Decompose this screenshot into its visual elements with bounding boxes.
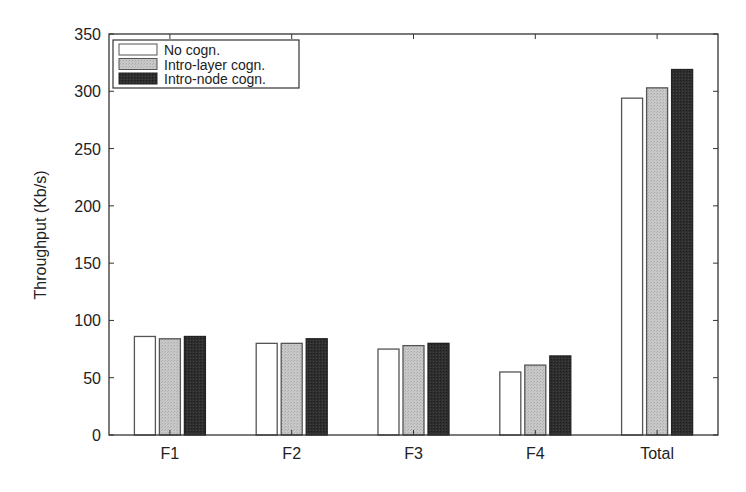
bar-f1-series-3: [184, 336, 205, 435]
bar-total-series-3: [672, 70, 693, 435]
legend: No cogn.Intro-layer cogn.Intro-node cogn…: [113, 40, 299, 88]
bar-f1-series-2: [159, 339, 180, 435]
bars-group: [134, 70, 692, 435]
x-tick-label: F1: [161, 445, 180, 462]
y-tick-label: 250: [74, 141, 101, 158]
y-tick-label: 300: [74, 83, 101, 100]
legend-swatch-3: [119, 73, 157, 84]
legend-swatch-1: [119, 44, 157, 55]
y-axis-label: Throughput (Kb/s): [32, 171, 49, 300]
bar-f2-series-3: [306, 339, 327, 435]
bar-f4-series-2: [525, 365, 546, 435]
y-tick-label: 150: [74, 255, 101, 272]
bar-f3-series-1: [378, 349, 399, 435]
y-tick-label: 100: [74, 312, 101, 329]
x-tick-label: F4: [526, 445, 545, 462]
chart-canvas: F1F2F3F4Total050100150200250300350 No co…: [0, 0, 746, 492]
bar-f2-series-1: [256, 343, 277, 435]
y-tick-label: 0: [92, 427, 101, 444]
bar-f4-series-1: [500, 372, 521, 435]
y-tick-label: 200: [74, 198, 101, 215]
bar-f4-series-3: [550, 356, 571, 435]
throughput-bar-chart: F1F2F3F4Total050100150200250300350 No co…: [0, 0, 746, 492]
bar-f2-series-2: [281, 343, 302, 435]
x-tick-label: F3: [404, 445, 423, 462]
bar-f3-series-3: [428, 343, 449, 435]
bar-f1-series-1: [134, 336, 155, 435]
legend-label-3: Intro-node cogn.: [164, 71, 266, 87]
bar-total-series-2: [647, 88, 668, 435]
y-tick-label: 350: [74, 26, 101, 43]
bar-f3-series-2: [403, 346, 424, 435]
x-tick-label: Total: [640, 445, 674, 462]
x-tick-label: F2: [282, 445, 301, 462]
legend-swatch-2: [119, 59, 157, 70]
y-tick-label: 50: [83, 370, 101, 387]
bar-total-series-1: [622, 98, 643, 435]
